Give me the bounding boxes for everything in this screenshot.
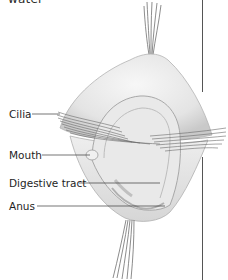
label-cilia: Cilia <box>9 108 32 120</box>
apical-tuft-icon <box>144 2 161 55</box>
label-mouth: Mouth <box>9 149 42 161</box>
label-anus: Anus <box>9 200 35 212</box>
trochophore-illustration <box>0 0 228 280</box>
bottom-tuft-icon <box>113 220 134 279</box>
label-digestive-tract: Digestive tract <box>9 177 86 189</box>
